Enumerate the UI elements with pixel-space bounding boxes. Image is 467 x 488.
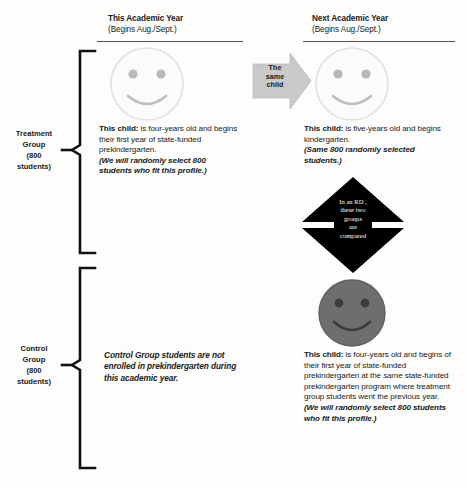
comparison-diamond-label: In an RD , these two groups are compared	[320, 198, 386, 240]
same-child-arrow-label: The same child	[258, 64, 292, 90]
treatment-group-label: Treatment Group (800 students)	[3, 128, 65, 172]
treatment-group-label-line3: (800	[3, 150, 65, 161]
treatment-this-year-note: (We will randomly select 800 students wh…	[99, 156, 239, 177]
header-this-academic-year: This Academic Year (Begins Aug./Sept.)	[108, 14, 183, 35]
treatment-group-label-line1: Treatment	[3, 128, 65, 139]
control-this-year-text: Control Group students are not enrolled …	[104, 350, 248, 384]
control-group-brace	[62, 268, 95, 468]
treatment-next-year-text: This child: is five-years old and begins…	[304, 124, 452, 166]
comparison-diamond-label-line1: In an RD ,	[320, 198, 386, 206]
comparison-diamond-label-line4: are	[320, 223, 386, 231]
control-group-label: Control Group (800 students)	[3, 343, 65, 387]
treatment-this-year-lead: This child:	[99, 124, 138, 133]
control-group-label-line1: Control	[3, 343, 65, 354]
header-this-academic-year-subtitle: (Begins Aug./Sept.)	[108, 25, 183, 36]
control-next-year-lead: This child:	[304, 350, 343, 359]
header-rule-next-year	[303, 41, 455, 42]
control-next-year-text: This child: is four-years old and begins…	[304, 350, 454, 424]
treatment-next-year-lead: This child:	[304, 124, 343, 133]
comparison-diamond-label-line2: these two	[320, 206, 386, 214]
comparison-diamond-label-line5: compared	[320, 232, 386, 240]
control-group-label-line2: Group	[3, 354, 65, 365]
header-next-academic-year: Next Academic Year (Begins Aug./Sept.)	[312, 14, 388, 35]
same-child-arrow-label-line3: child	[258, 81, 292, 90]
treatment-this-year-face-icon	[111, 48, 183, 120]
treatment-group-label-line4: students)	[3, 161, 65, 172]
control-group-label-line4: students)	[3, 376, 65, 387]
header-rule-this-year	[97, 41, 243, 42]
control-next-year-face-icon	[319, 280, 385, 346]
treatment-group-label-line2: Group	[3, 139, 65, 150]
treatment-this-year-text: This child: is four-years old and begins…	[99, 124, 239, 177]
control-next-year-note: (We will randomly select 800 students wh…	[304, 403, 454, 424]
control-next-year-body-emphasis: same	[383, 371, 402, 380]
treatment-group-brace	[62, 51, 95, 253]
header-next-academic-year-subtitle: (Begins Aug./Sept.)	[312, 25, 388, 36]
treatment-next-year-face-icon	[316, 48, 388, 120]
diagram-canvas: This Academic Year (Begins Aug./Sept.) N…	[0, 0, 467, 488]
control-group-label-line3: (800	[3, 365, 65, 376]
treatment-next-year-note: (Same 800 randomly selected students.)	[304, 145, 452, 166]
comparison-diamond-label-line3: groups	[320, 215, 386, 223]
header-this-academic-year-title: This Academic Year	[108, 14, 183, 25]
header-next-academic-year-title: Next Academic Year	[312, 14, 388, 25]
